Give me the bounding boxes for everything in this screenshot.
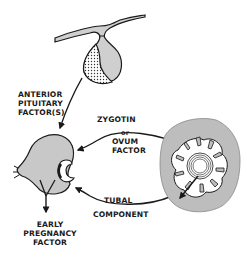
label-line: EARLY (22, 220, 78, 229)
label-line: ANTERIOR (18, 90, 65, 99)
label-line: FACTOR(S) (18, 108, 65, 117)
label-line: PITUITARY (18, 99, 65, 108)
label-line: OVUM (112, 137, 138, 146)
ovum-factor-label: or OVUM FACTOR (112, 130, 138, 155)
ovary-shape (13, 135, 74, 194)
tube-cross-section (160, 119, 240, 212)
zygotin-label: ZYGOTIN (97, 115, 136, 124)
label-line: FACTOR (112, 146, 138, 155)
label-line: PREGNANCY (22, 229, 78, 238)
diagram-canvas: ANTERIOR PITUITARY FACTOR(S) ZYGOTIN or … (0, 0, 242, 254)
component-label: COMPONENT (93, 210, 149, 219)
pituitary-gland (83, 36, 121, 84)
anterior-pituitary-label: ANTERIOR PITUITARY FACTOR(S) (18, 90, 65, 117)
early-pregnancy-factor-label: EARLY PREGNANCY FACTOR (22, 220, 78, 247)
label-line: or (112, 130, 138, 137)
tubal-label: TUBAL (104, 196, 132, 205)
label-line: FACTOR (22, 238, 78, 247)
